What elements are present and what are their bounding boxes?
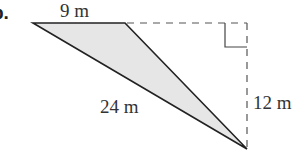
hypotenuse-label: 24 m	[100, 97, 139, 116]
triangle-diagram	[0, 0, 305, 158]
top-side-label: 9 m	[60, 1, 89, 20]
right-angle-marker	[225, 23, 247, 47]
shaded-triangle	[33, 23, 247, 149]
height-label: 12 m	[253, 93, 292, 112]
